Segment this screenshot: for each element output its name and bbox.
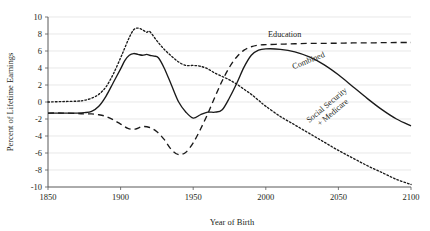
y-tick-labels: -10-8-6-4-20246810: [31, 12, 43, 192]
x-tick-label: 1950: [185, 192, 202, 202]
x-tick-label: 2100: [403, 192, 420, 202]
x-axis-title: Year of Birth: [210, 217, 255, 227]
line-chart: -10-8-6-4-20246810 185019001950200020502…: [0, 0, 430, 231]
series-label-social-security-medicare: Social Security+ Medicare: [305, 85, 356, 132]
y-tick-label: 6: [38, 46, 42, 56]
y-tick-label: -6: [35, 148, 42, 158]
x-tick-labels: 185019001950200020502100: [40, 192, 420, 202]
y-tick-label: 2: [38, 80, 42, 90]
x-tick-label: 1900: [112, 192, 129, 202]
y-tick-label: 0: [38, 97, 42, 107]
y-tick-label: 4: [38, 63, 43, 73]
y-tick-label: -10: [31, 182, 42, 192]
y-tick-label: -4: [35, 131, 43, 141]
series-label-education: Education: [268, 30, 301, 39]
x-tick-label: 2000: [257, 192, 274, 202]
gridlines-group: [48, 17, 411, 170]
y-tick-label: -2: [35, 114, 42, 124]
series-line-social-security-medicare: [48, 28, 411, 184]
x-tick-label: 2050: [330, 192, 347, 202]
chart-container: -10-8-6-4-20246810 185019001950200020502…: [0, 0, 430, 231]
x-tick-label: 1850: [40, 192, 57, 202]
y-tick-label: -8: [35, 165, 42, 175]
y-tick-label: 10: [34, 12, 43, 22]
series-line-combined: [48, 49, 411, 126]
y-axis-title: Percent of Lifetime Earnings: [5, 53, 15, 151]
y-tick-label: 8: [38, 29, 42, 39]
series-lines-group: [48, 28, 411, 184]
